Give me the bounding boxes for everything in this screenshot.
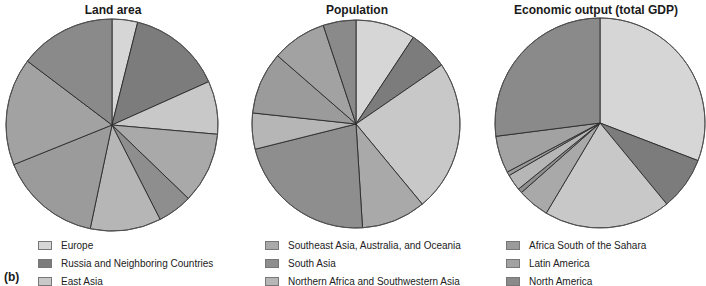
legend-item-south-asia: South Asia (265, 254, 461, 272)
legend-swatch (506, 277, 520, 286)
legend-item-southeast-asia: Southeast Asia, Australia, and Oceania (265, 236, 461, 254)
legend-swatch (38, 277, 52, 286)
legend-label: Northern Africa and Southwestern Asia (288, 276, 460, 286)
legend-swatch (506, 259, 520, 268)
legend-swatch (38, 241, 52, 250)
legend-label: East Asia (61, 276, 103, 286)
legend-swatch (506, 241, 520, 250)
figure-label: (b) (4, 270, 19, 284)
legend-item-russia: Russia and Neighboring Countries (38, 254, 213, 272)
legend-column-3: Africa South of the Sahara Latin America… (506, 236, 646, 286)
legend-label: Russia and Neighboring Countries (61, 258, 213, 269)
legend-label: Latin America (529, 258, 590, 269)
legend-label: Africa South of the Sahara (529, 240, 646, 251)
legend-item-europe: Europe (38, 236, 213, 254)
legend-item-north-america: North America (506, 272, 646, 286)
legend-item-northern-africa: Northern Africa and Southwestern Asia (265, 272, 461, 286)
legend-item-africa-south-sahara: Africa South of the Sahara (506, 236, 646, 254)
population-pie (244, 0, 470, 236)
legend-item-east-asia: East Asia (38, 272, 213, 286)
gdp-pie (486, 0, 706, 236)
legend-column-2: Southeast Asia, Australia, and Oceania S… (265, 236, 461, 286)
legend-label: South Asia (288, 258, 336, 269)
legend-swatch (265, 259, 279, 268)
land-area-pie (0, 0, 226, 236)
legend-swatch (265, 241, 279, 250)
legend-column-1: Europe Russia and Neighboring Countries … (38, 236, 213, 286)
legend-label: North America (529, 276, 592, 286)
legend-label: Europe (61, 240, 93, 251)
legend-swatch (38, 259, 52, 268)
legend-swatch (265, 277, 279, 286)
legend-item-latin-america: Latin America (506, 254, 646, 272)
legend-label: Southeast Asia, Australia, and Oceania (288, 240, 461, 251)
pie-slice (495, 18, 600, 136)
